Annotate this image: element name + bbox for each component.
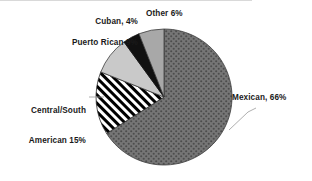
leader-line-mexican <box>229 108 256 130</box>
slice-label-central-south-american-line2: American 15% <box>2 136 86 146</box>
slice-label-puerto-rican: Puerto Rican 9% <box>34 38 138 48</box>
slice-label-central-south-american: Central/South American 15% <box>2 86 86 166</box>
slice-label-other: Other 6% <box>146 9 183 19</box>
pie-chart-figure: Mexican, 66% Other 6% Cuban, 4% Puerto R… <box>0 0 312 181</box>
slice-label-mexican: Mexican, 66% <box>232 93 286 103</box>
slice-label-cuban: Cuban, 4% <box>74 17 138 27</box>
slice-label-central-south-american-line1: Central/South <box>2 106 86 116</box>
pie-slices <box>96 29 232 165</box>
